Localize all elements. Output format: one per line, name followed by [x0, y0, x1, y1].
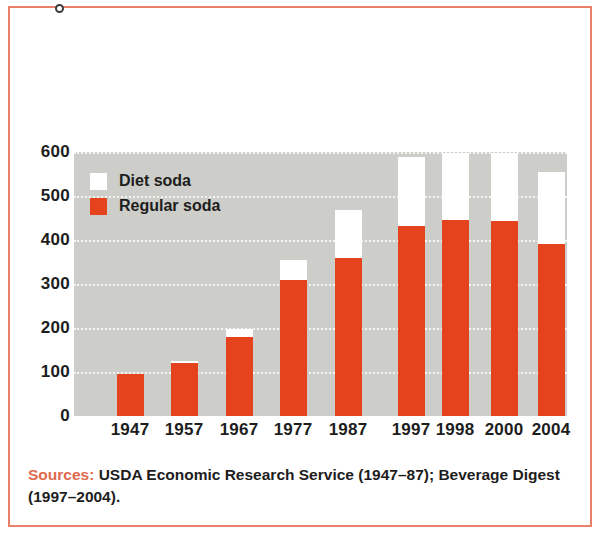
plot-area-wrapper: Diet soda Regular soda [74, 152, 567, 416]
y-tick-label: 200 [41, 318, 70, 338]
legend-item-regular-soda: Regular soda [90, 197, 220, 215]
diet-soda-swatch [90, 173, 107, 190]
bar-group[interactable] [226, 152, 253, 416]
y-tick-label: 300 [41, 274, 70, 294]
bar-group[interactable] [491, 152, 518, 416]
legend-label-diet-soda: Diet soda [119, 172, 191, 190]
x-axis: 194719571967197719871997199820002004 [74, 420, 567, 446]
bar-segment-regular-soda [335, 258, 362, 416]
y-tick-label: 400 [41, 230, 70, 250]
regular-soda-swatch [90, 198, 107, 215]
bar-group[interactable] [442, 152, 469, 416]
bar-segment-regular-soda [171, 363, 198, 416]
source-text: USDA Economic Research Service (1947–87)… [28, 466, 560, 505]
bar-segment-regular-soda [491, 221, 518, 416]
y-axis: 0100200300400500600 [10, 152, 70, 416]
source-note: Sources: USDA Economic Research Service … [28, 464, 576, 508]
bar-segment-diet-soda [171, 361, 198, 363]
bar-segment-diet-soda [491, 153, 518, 221]
bar-group[interactable] [538, 152, 565, 416]
y-tick-label: 500 [41, 186, 70, 206]
bar-segment-diet-soda [280, 260, 307, 280]
bar-segment-diet-soda [226, 329, 253, 337]
legend-item-diet-soda: Diet soda [90, 172, 220, 190]
x-tick-label: 1957 [165, 420, 204, 440]
bar-segment-regular-soda [398, 226, 425, 416]
x-tick-label: 1977 [274, 420, 313, 440]
x-tick-label: 1998 [436, 420, 475, 440]
bar-group[interactable] [398, 152, 425, 416]
x-tick-label: 1967 [220, 420, 259, 440]
chart-legend: Diet soda Regular soda [90, 172, 220, 222]
bar-segment-diet-soda [538, 172, 565, 245]
bar-segment-regular-soda [538, 244, 565, 416]
source-label: Sources: [28, 466, 94, 483]
bar-group[interactable] [280, 152, 307, 416]
bar-segment-regular-soda [226, 337, 253, 416]
bar-segment-regular-soda [280, 280, 307, 416]
y-tick-label: 100 [41, 362, 70, 382]
y-tick-label: 0 [60, 406, 70, 426]
bar-segment-diet-soda [442, 153, 469, 220]
bar-segment-diet-soda [335, 210, 362, 258]
x-tick-label: 1997 [392, 420, 431, 440]
x-tick-label: 2000 [485, 420, 524, 440]
bar-segment-regular-soda [117, 374, 144, 416]
y-tick-label: 600 [41, 142, 70, 162]
legend-label-regular-soda: Regular soda [119, 197, 220, 215]
x-tick-label: 1987 [329, 420, 368, 440]
figure-frame: 0100200300400500600 Diet soda Regular so… [8, 6, 592, 527]
x-tick-label: 1947 [111, 420, 150, 440]
bar-segment-diet-soda [398, 157, 425, 226]
bar-segment-regular-soda [442, 220, 469, 416]
soda-consumption-chart: 0100200300400500600 Diet soda Regular so… [10, 8, 594, 529]
bar-group[interactable] [335, 152, 362, 416]
x-tick-label: 2004 [532, 420, 571, 440]
